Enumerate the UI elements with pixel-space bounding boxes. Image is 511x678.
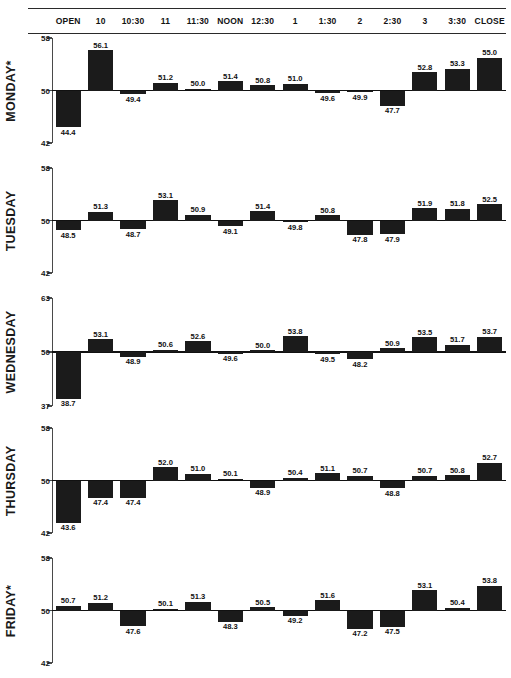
bar-slot[interactable]: 53.5 (409, 298, 441, 406)
bar[interactable] (283, 336, 308, 352)
bar-slot[interactable]: 53.3 (441, 38, 473, 143)
bar[interactable] (218, 221, 243, 227)
bar[interactable] (250, 481, 275, 488)
bar[interactable] (283, 84, 308, 91)
bar-slot[interactable]: 51.1 (311, 428, 343, 533)
bar-slot[interactable]: 49.5 (311, 298, 343, 406)
bar-slot[interactable]: 47.2 (344, 558, 376, 663)
bar[interactable] (218, 611, 243, 622)
bar[interactable] (185, 474, 210, 481)
bar[interactable] (250, 607, 275, 610)
bar[interactable] (88, 212, 113, 221)
bar[interactable] (445, 345, 470, 352)
bar[interactable] (315, 600, 340, 611)
bar[interactable] (412, 476, 437, 481)
bar-slot[interactable]: 51.0 (279, 38, 311, 143)
bar[interactable] (380, 91, 405, 106)
bar[interactable] (380, 611, 405, 627)
bar-slot[interactable]: 48.3 (214, 558, 246, 663)
bar-slot[interactable]: 50.0 (247, 298, 279, 406)
bar-slot[interactable]: 52.6 (182, 298, 214, 406)
bar[interactable] (412, 208, 437, 220)
bar-slot[interactable]: 50.4 (279, 428, 311, 533)
bar-slot[interactable]: 51.4 (214, 38, 246, 143)
bar[interactable] (185, 602, 210, 611)
bar[interactable] (56, 352, 81, 399)
bar[interactable] (120, 221, 145, 230)
bar[interactable] (477, 586, 502, 611)
bar-slot[interactable]: 53.8 (473, 558, 505, 663)
bar-slot[interactable]: 52.7 (473, 428, 505, 533)
bar[interactable] (445, 209, 470, 221)
bar-slot[interactable]: 49.1 (214, 168, 246, 273)
bar[interactable] (315, 215, 340, 220)
bar[interactable] (56, 221, 81, 231)
bar-slot[interactable]: 50.1 (214, 428, 246, 533)
bar-slot[interactable]: 50.5 (247, 558, 279, 663)
bar-slot[interactable]: 48.7 (117, 168, 149, 273)
bar[interactable] (218, 479, 243, 481)
bar[interactable] (153, 83, 178, 91)
bar[interactable] (120, 481, 145, 498)
bar[interactable] (445, 608, 470, 611)
bar[interactable] (153, 350, 178, 352)
bar-slot[interactable]: 53.7 (473, 298, 505, 406)
bar-slot[interactable]: 44.4 (52, 38, 84, 143)
bar-slot[interactable]: 51.2 (84, 558, 116, 663)
bar-slot[interactable]: 49.2 (279, 558, 311, 663)
bar-slot[interactable]: 47.6 (117, 558, 149, 663)
bar-slot[interactable]: 53.1 (409, 558, 441, 663)
bar[interactable] (88, 339, 113, 352)
bar[interactable] (185, 341, 210, 352)
bar-slot[interactable]: 50.6 (149, 298, 181, 406)
bar-slot[interactable]: 49.9 (344, 38, 376, 143)
bar[interactable] (380, 221, 405, 235)
bar-slot[interactable]: 48.2 (344, 298, 376, 406)
bar-slot[interactable]: 51.0 (182, 428, 214, 533)
bar-slot[interactable]: 51.2 (149, 38, 181, 143)
bar-slot[interactable]: 50.7 (52, 558, 84, 663)
bar-slot[interactable]: 51.9 (409, 168, 441, 273)
bar-slot[interactable]: 49.8 (279, 168, 311, 273)
bar[interactable] (56, 91, 81, 128)
bar[interactable] (153, 200, 178, 220)
bar-slot[interactable]: 51.3 (84, 168, 116, 273)
bar[interactable] (250, 350, 275, 352)
bar[interactable] (347, 476, 372, 481)
bar[interactable] (56, 606, 81, 611)
bar-slot[interactable]: 47.9 (376, 168, 408, 273)
bar-slot[interactable]: 48.9 (247, 428, 279, 533)
bar[interactable] (153, 467, 178, 480)
bar[interactable] (120, 91, 145, 95)
bar[interactable] (88, 481, 113, 498)
bar-slot[interactable]: 52.0 (149, 428, 181, 533)
bar-slot[interactable]: 49.6 (311, 38, 343, 143)
bar-slot[interactable]: 50.4 (441, 558, 473, 663)
bar-slot[interactable]: 47.7 (376, 38, 408, 143)
bar[interactable] (185, 89, 210, 91)
bar-slot[interactable]: 50.8 (247, 38, 279, 143)
bar[interactable] (120, 611, 145, 627)
bar-slot[interactable]: 47.4 (84, 428, 116, 533)
bar[interactable] (88, 50, 113, 90)
bar[interactable] (153, 609, 178, 611)
bar-slot[interactable]: 52.5 (473, 168, 505, 273)
bar-slot[interactable]: 50.1 (149, 558, 181, 663)
bar[interactable] (477, 463, 502, 481)
bar-slot[interactable]: 49.4 (117, 38, 149, 143)
bar-slot[interactable]: 50.8 (311, 168, 343, 273)
bar[interactable] (315, 473, 340, 480)
bar-slot[interactable]: 49.6 (214, 298, 246, 406)
bar-slot[interactable]: 38.7 (52, 298, 84, 406)
bar-slot[interactable]: 48.9 (117, 298, 149, 406)
bar-slot[interactable]: 51.6 (311, 558, 343, 663)
bar[interactable] (412, 590, 437, 610)
bar-slot[interactable]: 50.7 (409, 428, 441, 533)
bar[interactable] (250, 85, 275, 90)
bar[interactable] (185, 215, 210, 221)
bar[interactable] (477, 204, 502, 220)
bar-slot[interactable]: 51.4 (247, 168, 279, 273)
bar-slot[interactable]: 47.4 (117, 428, 149, 533)
bar[interactable] (380, 481, 405, 489)
bar[interactable] (283, 478, 308, 481)
